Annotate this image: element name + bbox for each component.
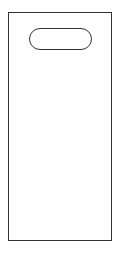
- bag-outline: [8, 12, 112, 241]
- handle-slot-cutout: [29, 28, 92, 50]
